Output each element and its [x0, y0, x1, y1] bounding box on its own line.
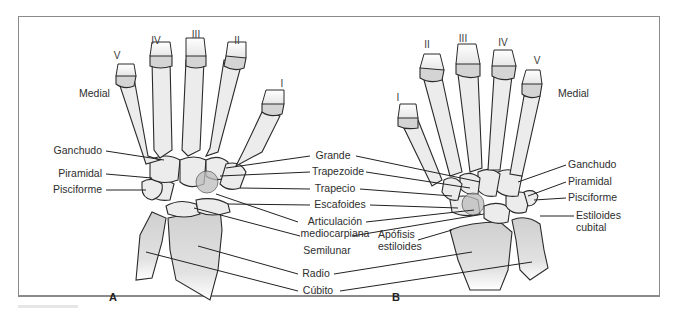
panel-a-digit-iii: III: [192, 29, 200, 40]
panel-b-digit-ii: II: [424, 39, 430, 50]
panel-a-radio-bone: [168, 208, 222, 300]
panel-a-digit-iv: IV: [151, 35, 161, 46]
grande-label: Grande: [315, 149, 350, 161]
panel-a-digit-i: I: [281, 78, 284, 89]
panel-b-pisciforme-label: Pisciforme: [568, 191, 617, 203]
panel-b-piramidal-label: Piramidal: [568, 175, 612, 187]
panel-b-digit-v: V: [534, 55, 541, 66]
cubito-label: Cúbito: [303, 284, 334, 296]
panel-a-piramidal-label: Piramidal: [58, 167, 102, 179]
panel-b-trapecio-bone: [442, 178, 462, 201]
panel-b-apofisis-label-line2: estiloides: [378, 240, 422, 252]
articulacion-label-line1: Articulación: [308, 215, 362, 227]
panel-a-digits: [116, 38, 284, 166]
panel-b-medial-label: Medial: [558, 87, 589, 99]
panel-b-ganchudo-label: Ganchudo: [568, 158, 617, 170]
panel-a-illustration: [116, 38, 284, 300]
panel-b-cubito-bone: [512, 218, 548, 280]
panel-a-cubito-bone: [136, 212, 166, 280]
panel-b-estiloides-label-line2: cubital: [576, 221, 606, 233]
panel-a-mediocarpal-joint: [196, 171, 218, 193]
trapezoide-label: Trapezoide: [312, 165, 364, 177]
panel-a-digit-v: V: [114, 50, 121, 61]
panel-b-grande-bone: [478, 169, 500, 196]
panel-b-digit-i: I: [397, 92, 400, 103]
panel-b-mediocarpal-joint: [462, 193, 484, 215]
panel-a-ganchudo-label: Ganchudo: [54, 144, 103, 156]
radio-label: Radio: [302, 267, 330, 279]
trapecio-label: Trapecio: [315, 182, 356, 194]
panel-b-digit-iii: III: [459, 33, 467, 44]
panel-b-digit-iv: IV: [498, 37, 508, 48]
panel-a-letter: A: [109, 291, 117, 303]
panel-b-trapezoide-bone: [460, 173, 480, 194]
escafoides-label: Escafoides: [314, 198, 365, 210]
panel-b-letter: B: [392, 291, 400, 303]
panel-a-medial-label: Medial: [79, 87, 110, 99]
panel-a-semilunar-bone: [166, 201, 200, 217]
panel-a-pisciforme-label: Pisciforme: [53, 183, 102, 195]
panel-b-apofisis-label-line1: Apófisis: [378, 228, 415, 240]
panel-b-radio-bone: [450, 222, 512, 290]
panel-b-digits: [398, 44, 542, 186]
panel-a-digit-ii: II: [234, 35, 240, 46]
wrist-anatomy-figure: V IV III II I Medial Ganchudo Piramidal …: [0, 0, 677, 329]
semilunar-label: Semilunar: [303, 244, 351, 256]
panel-b-illustration: [398, 44, 548, 290]
panel-b-estiloides-label-line1: Estiloides: [576, 209, 621, 221]
articulacion-label-line2: mediocarpiana: [301, 227, 370, 239]
